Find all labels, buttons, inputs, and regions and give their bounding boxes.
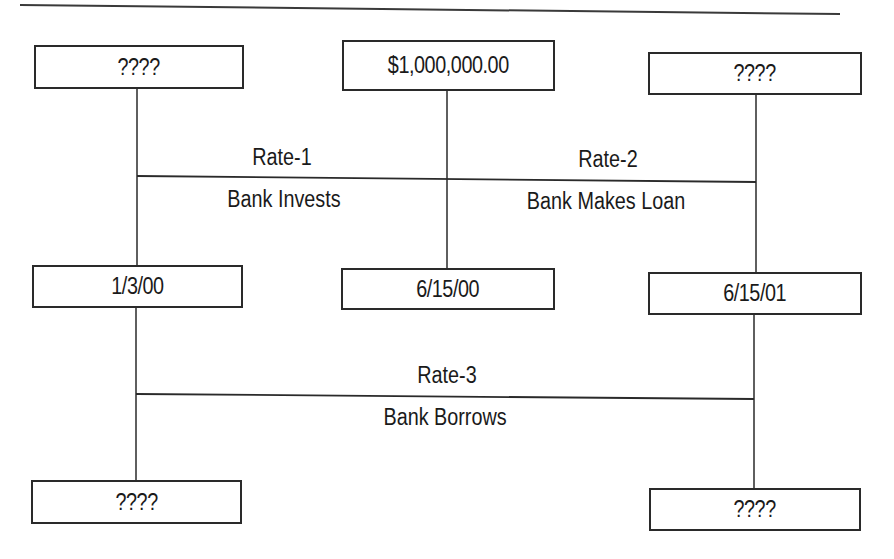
mid-date-box: 6/15/00 bbox=[341, 268, 555, 310]
rate-2-label: Rate-2 bbox=[578, 148, 637, 171]
mid-date: 6/15/00 bbox=[417, 276, 480, 303]
rate-timeline-diagram: ???? $1,000,000.00 ???? Rate-1 Bank Inve… bbox=[0, 0, 894, 559]
end-date: 6/15/01 bbox=[724, 280, 787, 307]
rate-3-label: Rate-3 bbox=[417, 364, 476, 387]
end-date-box: 6/15/01 bbox=[648, 272, 862, 315]
start-date: 1/3/00 bbox=[111, 273, 163, 300]
top-right-value: ???? bbox=[734, 60, 776, 87]
bank-invests-label: Bank Invests bbox=[227, 188, 340, 211]
top-right-value-box: ???? bbox=[648, 52, 862, 95]
lower-horizontal-link bbox=[136, 394, 754, 399]
bottom-left-value: ???? bbox=[115, 489, 157, 516]
bank-makes-loan-label: Bank Makes Loan bbox=[527, 190, 685, 213]
principal-amount: $1,000,000.00 bbox=[388, 52, 509, 79]
top-rule bbox=[20, 5, 840, 14]
start-date-box: 1/3/00 bbox=[32, 265, 243, 308]
bottom-right-value-box: ???? bbox=[649, 488, 861, 531]
top-left-value-box: ???? bbox=[34, 45, 244, 89]
top-center-principal-box: $1,000,000.00 bbox=[342, 40, 555, 91]
bank-borrows-label: Bank Borrows bbox=[383, 406, 506, 429]
bottom-right-value: ???? bbox=[734, 496, 776, 523]
top-left-value: ???? bbox=[118, 54, 160, 81]
rate-1-label: Rate-1 bbox=[252, 146, 311, 169]
bottom-left-value-box: ???? bbox=[31, 480, 242, 524]
